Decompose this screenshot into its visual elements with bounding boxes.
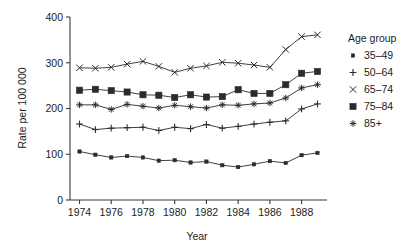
data-point	[203, 121, 210, 128]
data-point	[235, 102, 242, 108]
data-point	[314, 82, 321, 88]
data-point	[156, 63, 162, 69]
data-point	[282, 117, 289, 124]
legend-items: 35–4950–6465–7475–8485+	[350, 49, 394, 129]
data-point	[141, 156, 144, 159]
y-tick-label: 0	[57, 194, 63, 206]
data-point	[266, 119, 273, 126]
legend-label: 75–84	[364, 100, 393, 112]
data-point	[298, 106, 305, 113]
legend-marker-50-64	[350, 69, 357, 76]
data-point	[76, 87, 82, 93]
data-point	[173, 158, 176, 161]
data-point	[172, 94, 178, 100]
data-point	[298, 85, 305, 91]
data-point	[235, 123, 242, 130]
y-tick-label: 200	[45, 102, 63, 114]
legend-marker-65-74	[350, 86, 356, 92]
data-point	[251, 90, 257, 96]
data-point	[314, 68, 320, 74]
data-point	[203, 94, 209, 100]
data-point	[187, 103, 194, 109]
data-point	[140, 92, 146, 98]
data-point	[92, 86, 98, 92]
data-point	[203, 105, 210, 111]
data-point	[94, 153, 97, 156]
y-axis-title: Rate per 100 000	[16, 67, 28, 148]
data-point	[140, 124, 147, 131]
data-point	[267, 90, 273, 96]
data-point	[157, 159, 160, 162]
data-point	[124, 101, 131, 107]
data-point	[252, 163, 255, 166]
x-tick-label: 1980	[163, 206, 187, 218]
data-point	[221, 164, 224, 167]
x-tick-label: 1978	[131, 206, 155, 218]
data-point	[156, 92, 162, 98]
data-point	[282, 95, 289, 101]
data-point	[314, 101, 321, 108]
series-line	[80, 71, 318, 97]
data-point	[205, 160, 208, 163]
data-point	[108, 88, 114, 94]
data-point	[266, 100, 273, 106]
x-tick-label: 1974	[68, 206, 92, 218]
data-point	[110, 156, 113, 159]
legend-marker-85+	[350, 120, 357, 126]
series-50-64	[76, 101, 321, 134]
data-point	[219, 94, 225, 100]
data-point	[187, 125, 194, 132]
data-point	[284, 161, 287, 164]
data-point	[236, 165, 239, 168]
legend-label: 50–64	[364, 66, 393, 78]
data-point	[316, 151, 319, 154]
y-tick-label: 100	[45, 148, 63, 160]
legend-label: 85+	[364, 117, 382, 129]
legend-label: 35–49	[364, 49, 393, 61]
data-point	[283, 46, 289, 52]
legend-marker-35-49	[351, 54, 354, 57]
chart-figure: Rate per 100 000 Year 0100200300400 1974…	[0, 0, 410, 248]
data-point	[251, 121, 258, 128]
data-point	[219, 102, 226, 108]
data-point	[92, 126, 99, 133]
data-point	[189, 161, 192, 164]
data-point	[92, 102, 99, 108]
series-line	[80, 35, 318, 73]
legend-label: 65–74	[364, 83, 393, 95]
series-65-74	[76, 32, 320, 76]
data-point	[172, 69, 178, 75]
y-tick-label: 300	[45, 57, 63, 69]
data-point	[78, 150, 81, 153]
y-axis-ticks: 0100200300400	[45, 11, 70, 206]
x-axis-title: Year	[186, 230, 208, 242]
data-point	[283, 82, 289, 88]
data-point	[171, 124, 178, 131]
data-point	[268, 159, 271, 162]
series-line	[80, 85, 318, 110]
data-point	[124, 89, 130, 95]
x-tick-label: 1984	[226, 206, 250, 218]
x-axis-ticks: 19741976197819801982198419861988	[68, 200, 314, 218]
data-point	[140, 103, 147, 109]
data-point	[108, 106, 115, 112]
data-point	[300, 153, 303, 156]
data-point	[76, 121, 83, 128]
data-point	[124, 124, 131, 131]
series-line	[80, 152, 318, 168]
data-point	[187, 92, 193, 98]
x-tick-label: 1982	[195, 206, 219, 218]
y-tick-label: 400	[45, 11, 63, 23]
legend-marker-75-84	[350, 103, 356, 109]
data-point	[155, 105, 162, 111]
legend-title: Age group	[348, 32, 397, 44]
data-point	[108, 125, 115, 132]
data-point	[76, 102, 83, 108]
x-tick-label: 1976	[100, 206, 124, 218]
data-point	[155, 127, 162, 134]
line-chart: Rate per 100 000 Year 0100200300400 1974…	[0, 0, 410, 248]
series-35-49	[78, 150, 319, 169]
x-tick-label: 1988	[290, 206, 314, 218]
data-point	[251, 101, 258, 107]
data-point	[299, 70, 305, 76]
